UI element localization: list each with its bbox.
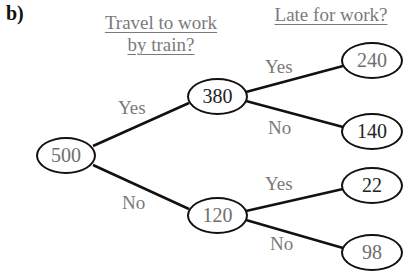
branch-label-root-yes: Yes (118, 98, 146, 118)
branch-label-b-yes: Yes (265, 174, 293, 194)
node-root-500: 500 (36, 137, 96, 174)
branch-label-a-yes: Yes (265, 57, 293, 77)
edge-a-yes (246, 66, 343, 92)
edge-a-no (246, 101, 343, 127)
branch-label-root-no: No (122, 193, 145, 213)
node-train-no-120: 120 (187, 197, 248, 234)
node-late-no-98: 98 (341, 234, 403, 271)
edge-b-yes (246, 189, 343, 211)
node-late-yes-22: 22 (341, 167, 403, 204)
branch-label-a-no: No (268, 118, 291, 138)
edge-b-no (246, 220, 343, 248)
node-late-yes-240: 240 (341, 42, 403, 79)
branch-label-b-no: No (270, 234, 293, 254)
node-late-no-140: 140 (341, 113, 403, 150)
node-train-yes-380: 380 (187, 78, 248, 115)
